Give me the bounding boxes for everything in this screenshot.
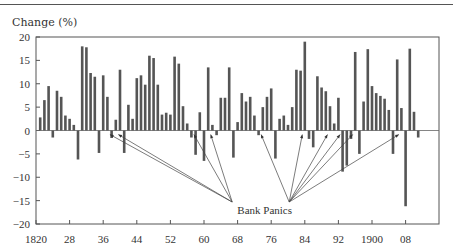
bar xyxy=(211,125,214,131)
arrowhead-icon xyxy=(337,135,340,139)
bar xyxy=(161,115,164,131)
bar xyxy=(308,131,311,139)
x-tick-label: 08 xyxy=(400,233,412,245)
bar xyxy=(43,100,46,130)
bar xyxy=(341,131,344,172)
bar xyxy=(152,58,155,130)
bar xyxy=(262,107,265,130)
bar xyxy=(304,42,307,131)
bar xyxy=(169,115,172,131)
bar xyxy=(404,131,407,207)
bar xyxy=(409,49,412,131)
y-tick-label: 0 xyxy=(25,125,31,137)
bar xyxy=(144,85,147,131)
bar xyxy=(325,91,328,130)
arrowhead-icon xyxy=(261,135,264,139)
arrowhead-icon xyxy=(395,135,399,138)
bar xyxy=(115,120,118,131)
bar xyxy=(39,117,42,130)
bar xyxy=(85,47,88,130)
bar xyxy=(148,56,151,131)
bar xyxy=(64,116,67,131)
bar xyxy=(362,102,365,131)
bar xyxy=(295,70,298,131)
bar xyxy=(89,73,92,131)
x-tick-label: 28 xyxy=(64,233,76,245)
bar xyxy=(131,119,134,131)
bar xyxy=(60,97,63,131)
bar xyxy=(257,131,260,136)
x-tick-label: 92 xyxy=(333,233,344,245)
x-tick-label: 68 xyxy=(232,233,244,245)
y-tick-label: −5 xyxy=(18,148,30,160)
bar xyxy=(392,131,395,154)
bar xyxy=(98,131,101,153)
bar xyxy=(56,91,59,131)
bar xyxy=(178,64,181,131)
y-tick-label: −20 xyxy=(13,218,31,230)
bar xyxy=(354,52,357,131)
bar xyxy=(241,93,244,130)
arrowhead-icon xyxy=(300,135,303,139)
bar xyxy=(379,96,382,131)
y-tick-label: −10 xyxy=(13,171,31,183)
bar xyxy=(367,49,370,130)
bar xyxy=(127,105,130,131)
y-tick-label: −15 xyxy=(13,195,31,207)
arrowhead-icon xyxy=(210,135,213,139)
bar xyxy=(220,98,223,131)
panic-arrow xyxy=(289,135,327,203)
bar xyxy=(245,102,248,131)
bar xyxy=(388,110,391,131)
bar xyxy=(383,99,386,131)
bar xyxy=(136,78,139,130)
bar xyxy=(291,107,294,130)
bar-chart: 20151050−5−10−15−20182028364452606876849… xyxy=(0,0,453,250)
bar xyxy=(266,97,269,131)
y-tick-label: 10 xyxy=(19,78,31,90)
bar xyxy=(312,131,315,148)
x-tick-label: 84 xyxy=(299,233,311,245)
bar xyxy=(232,131,235,158)
bar xyxy=(106,97,109,131)
x-tick-label: 36 xyxy=(98,233,110,245)
x-tick-label: 44 xyxy=(131,233,143,245)
bar xyxy=(186,123,189,130)
bar xyxy=(371,86,374,130)
panic-arrow xyxy=(289,135,340,203)
bar xyxy=(182,106,185,130)
bar xyxy=(358,131,361,154)
bar xyxy=(224,98,227,131)
bar xyxy=(94,77,97,131)
bar xyxy=(77,131,80,160)
bar xyxy=(207,67,210,130)
bar xyxy=(119,70,122,131)
bar xyxy=(165,113,168,131)
bar xyxy=(299,71,302,131)
panic-arrow xyxy=(289,135,302,203)
bar xyxy=(68,119,71,131)
panic-arrow xyxy=(118,135,232,203)
bar xyxy=(157,85,160,131)
bar xyxy=(396,59,399,130)
bar xyxy=(337,98,340,131)
bar xyxy=(194,131,197,155)
panic-arrow xyxy=(194,135,232,203)
bar xyxy=(329,106,332,130)
bar xyxy=(413,112,416,131)
bar xyxy=(400,108,403,130)
bar xyxy=(47,86,50,130)
bar xyxy=(320,87,323,130)
bar xyxy=(417,131,420,138)
bar xyxy=(253,116,256,131)
bar xyxy=(52,131,55,138)
y-tick-label: 5 xyxy=(25,101,31,113)
bar xyxy=(278,119,281,131)
x-tick-label: 76 xyxy=(266,233,278,245)
bar xyxy=(81,46,84,130)
bar xyxy=(346,131,349,166)
bar xyxy=(287,125,290,131)
bar xyxy=(249,97,252,131)
bank-panics-annotation: Bank Panics xyxy=(237,204,292,216)
bar xyxy=(173,57,176,131)
